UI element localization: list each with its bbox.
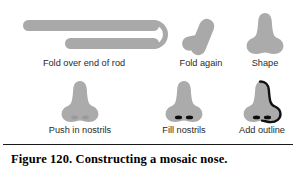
nose-body-path: [62, 81, 99, 122]
figure-caption-bar: Figure 120. Constructing a mosaic nose.: [3, 145, 293, 174]
nose-body-path: [247, 13, 284, 54]
nostril-right: [264, 116, 271, 120]
step-fold-again: Fold again: [163, 8, 239, 74]
nose-shape-plain: [243, 12, 287, 56]
step-shape: Shape: [237, 8, 293, 74]
rod-lower-segment: [65, 38, 159, 49]
step-label-shape: Shape: [237, 58, 293, 68]
nostril-left: [175, 116, 182, 120]
nostril-indent-left: [71, 116, 78, 120]
nose-body-path: [244, 81, 281, 122]
rod-upper-segment: [23, 20, 159, 31]
nose-shape-filled-nostrils: [162, 80, 206, 124]
figure-container: Fold over end of rod Fold again Shape: [0, 0, 301, 178]
nose-body-path: [166, 81, 203, 122]
step-fill-nostrils: Fill nostrils: [139, 78, 229, 140]
nostril-left: [253, 116, 260, 120]
step-label-fold-over-end-of-rod: Fold over end of rod: [9, 58, 159, 68]
step-add-outline: Add outline: [231, 78, 293, 140]
step-label-fold-again: Fold again: [163, 58, 239, 68]
nostril-right: [186, 116, 193, 120]
nose-shape-indented: [58, 80, 102, 124]
figure-caption: Figure 120. Constructing a mosaic nose.: [3, 152, 228, 167]
step-label-fill-nostrils: Fill nostrils: [139, 125, 229, 135]
figure-illustration-panel: Fold over end of rod Fold again Shape: [3, 2, 293, 145]
step-push-in-nostrils: Push in nostrils: [25, 78, 135, 140]
nostril-indent-right: [82, 116, 89, 120]
step-label-add-outline: Add outline: [231, 125, 293, 135]
step-label-push-in-nostrils: Push in nostrils: [25, 125, 135, 135]
step-fold-over-end-of-rod: Fold over end of rod: [9, 8, 159, 74]
rod-illustration: [21, 18, 161, 56]
fold-again-illustration: [181, 17, 221, 59]
nose-shape-outlined: [240, 80, 284, 124]
